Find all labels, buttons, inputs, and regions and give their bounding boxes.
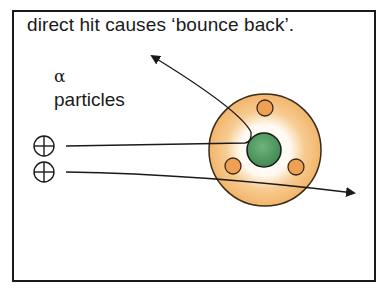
rutherford-scattering-diagram [0,0,386,294]
alpha-particle-2 [34,162,54,182]
alpha-particle-1 [34,136,54,156]
electron-top [257,100,273,116]
electron-right [288,159,304,175]
nucleus [247,133,281,167]
electron-left [225,158,241,174]
